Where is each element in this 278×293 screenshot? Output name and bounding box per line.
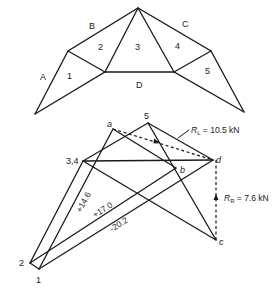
point-label-d: d — [216, 155, 222, 165]
truss: A B C D 1 2 3 4 5 — [35, 8, 244, 114]
force-line-5-c — [148, 123, 216, 240]
point-label-3-4: 3,4 — [66, 156, 79, 166]
point-label-2: 2 — [19, 258, 24, 268]
panel-label-4: 4 — [175, 41, 180, 51]
member-force-label-3: -20.2 — [108, 215, 130, 234]
member-force-label-1: +14.6 — [74, 190, 93, 214]
reaction-right-label: RR = 7.6 kN — [224, 193, 269, 204]
point-label-c: c — [219, 237, 224, 247]
point-label-1: 1 — [36, 275, 41, 285]
force-line-d-1 — [39, 160, 213, 269]
force-line-34-c — [83, 161, 216, 240]
space-label-b: B — [89, 21, 95, 31]
force-line-a-b — [113, 129, 176, 168]
force-diagram: 5 a 3,4 d b c 2 1 RL = 10.5 kN RR = 7.6 … — [19, 111, 269, 285]
space-label-d: D — [136, 80, 143, 90]
force-line-34-d — [83, 160, 213, 161]
reaction-left-label: RL = 10.5 kN — [191, 125, 239, 136]
reaction-left-leader — [178, 130, 189, 138]
force-line-2-1 — [30, 263, 39, 269]
force-line-34-2 — [30, 161, 83, 263]
point-label-b: b — [180, 165, 185, 175]
space-label-c: C — [182, 19, 189, 29]
truss-top-chord — [35, 8, 244, 114]
truss-member — [68, 51, 105, 72]
panel-label-2: 2 — [98, 42, 103, 52]
truss-diagram: A B C D 1 2 3 4 5 5 a 3,4 d b c — [0, 0, 278, 293]
panel-label-5: 5 — [205, 66, 210, 76]
space-label-a: A — [40, 72, 46, 82]
point-label-a: a — [107, 119, 112, 129]
member-force-label-2: +17.0 — [91, 200, 115, 220]
force-line-a-1 — [39, 129, 113, 269]
force-line-b-2 — [30, 168, 176, 263]
truss-member — [138, 8, 174, 72]
force-line-34-5 — [83, 123, 148, 161]
panel-label-3: 3 — [135, 42, 140, 52]
reaction-right-arrow-icon — [214, 194, 219, 200]
panel-label-1: 1 — [67, 71, 72, 81]
point-label-5: 5 — [144, 111, 149, 121]
